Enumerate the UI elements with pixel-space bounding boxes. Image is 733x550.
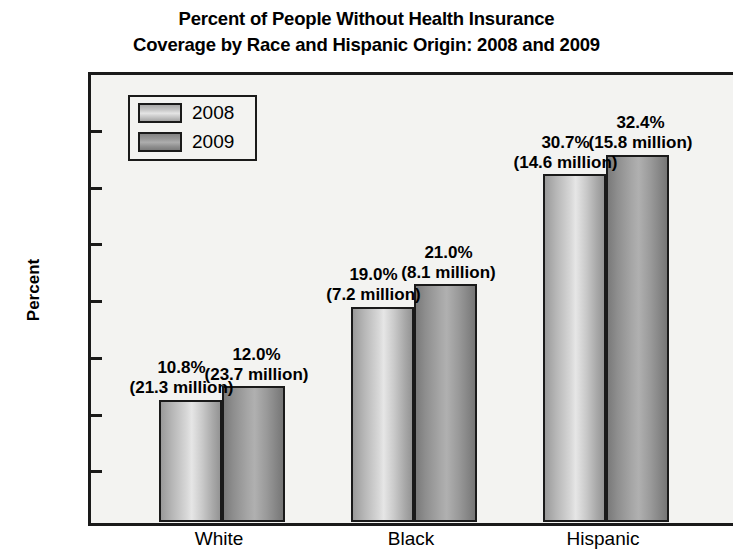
bar-white-2009[interactable]: [222, 386, 285, 522]
legend-swatch-2008-icon: [138, 103, 182, 123]
data-label-count: (15.8 million): [566, 133, 716, 153]
y-axis-tick-mark: [91, 414, 102, 417]
x-axis-label-hispanic: Hispanic: [523, 528, 683, 550]
bar-white-2008[interactable]: [159, 400, 222, 523]
chart-title-line-2: Coverage by Race and Hispanic Origin: 20…: [0, 32, 733, 58]
data-label-count: (14.6 million): [491, 153, 641, 173]
data-label-count: (8.1 million): [374, 263, 524, 283]
y-axis-tick-mark: [91, 130, 102, 133]
bar-hispanic-2008[interactable]: [543, 174, 606, 522]
bar-black-2009[interactable]: [414, 284, 477, 522]
bar-black-2008[interactable]: [351, 307, 414, 523]
legend-swatch-2009-icon: [138, 132, 182, 152]
x-axis-label-black: Black: [331, 528, 491, 550]
legend-label-2008: 2008: [192, 101, 234, 125]
bar-hispanic-2009[interactable]: [606, 155, 669, 523]
y-axis-tick-mark: [91, 357, 102, 360]
data-label-percent: 32.4%: [566, 113, 716, 133]
y-axis-tick-mark: [91, 187, 102, 190]
y-axis-tick-mark: [91, 243, 102, 246]
data-label-percent: 21.0%: [374, 243, 524, 263]
chart-title: Percent of People Without Health Insuran…: [0, 6, 733, 58]
legend-label-2009: 2009: [192, 130, 234, 154]
data-label-black-2009: 21.0%(8.1 million): [374, 243, 524, 283]
y-axis-tick-mark: [91, 470, 102, 473]
data-label-count: (7.2 million): [299, 285, 449, 305]
y-axis-title: Percent: [24, 235, 44, 345]
data-label-percent: 12.0%: [182, 345, 332, 365]
chart-title-line-1: Percent of People Without Health Insuran…: [179, 8, 555, 29]
x-axis-label-white: White: [139, 528, 299, 550]
data-label-hispanic-2009: 32.4%(15.8 million): [566, 113, 716, 153]
data-label-white-2009: 12.0%(23.7 million): [182, 345, 332, 385]
data-label-count: (23.7 million): [182, 365, 332, 385]
y-axis-tick-mark: [91, 300, 102, 303]
chart-legend: 2008 2009: [128, 95, 257, 161]
